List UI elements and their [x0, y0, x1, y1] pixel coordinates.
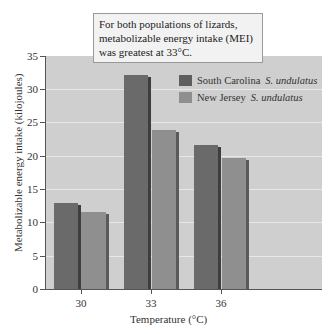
- legend-species: S. undulatus: [265, 75, 317, 86]
- legend-label: South Carolina: [197, 75, 260, 86]
- legend-item-sc: South Carolina S. undulatus: [179, 72, 317, 89]
- y-tick: [40, 156, 46, 157]
- bar-sc-36: [194, 145, 221, 289]
- x-tick-label: 30: [66, 297, 96, 309]
- bar-nj-30: [81, 212, 109, 289]
- y-axis-label: Metabolizable energy intake (kilojoules): [12, 92, 24, 252]
- bar-nj-36: [222, 158, 249, 289]
- legend-swatch-nj: [179, 92, 192, 103]
- legend-item-nj: New Jersey S. undulatus: [179, 89, 317, 106]
- gridline: [46, 156, 322, 157]
- y-tick: [40, 256, 46, 257]
- y-tick: [40, 222, 46, 223]
- y-tick-label: 5: [20, 251, 38, 262]
- bar-sc-30: [54, 203, 81, 289]
- bar-nj-33: [152, 130, 179, 289]
- x-tick: [151, 289, 152, 294]
- y-tick: [40, 56, 46, 57]
- y-tick-label: 35: [20, 51, 38, 62]
- legend: South Carolina S. undulatus New Jersey S…: [179, 72, 317, 106]
- x-tick-label: 33: [136, 297, 166, 309]
- y-tick: [40, 289, 46, 290]
- gridline: [46, 122, 322, 123]
- y-tick: [40, 89, 46, 90]
- gridline: [46, 189, 322, 190]
- x-tick: [81, 289, 82, 294]
- annotation-callout: For both populations of lizards, metabol…: [93, 13, 263, 63]
- x-axis-label: Temperature (°C): [130, 313, 207, 325]
- legend-species: S. undulatus: [251, 92, 303, 103]
- x-tick-label: 36: [206, 297, 236, 309]
- y-tick: [40, 122, 46, 123]
- legend-label: New Jersey: [197, 92, 246, 103]
- y-tick-label: 0: [20, 284, 38, 295]
- legend-swatch-sc: [179, 75, 192, 86]
- bar-sc-33: [124, 75, 151, 289]
- x-axis: [40, 289, 322, 290]
- x-tick: [221, 289, 222, 294]
- y-tick: [40, 189, 46, 190]
- y-axis: [45, 56, 46, 290]
